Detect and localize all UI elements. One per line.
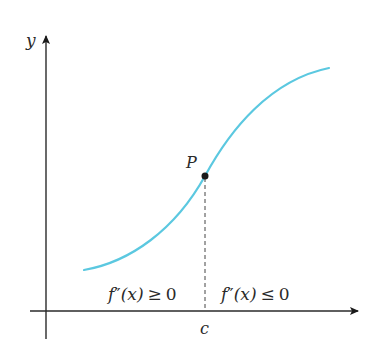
inflection-diagram: y P c f″(x)≥0 f″(x)≤0 bbox=[0, 0, 380, 349]
right-region-label: f″(x)≤0 bbox=[219, 284, 290, 304]
curve bbox=[84, 68, 329, 270]
left-region-label: f″(x)≥0 bbox=[106, 284, 177, 304]
point-label: P bbox=[185, 153, 197, 172]
y-axis-label: y bbox=[25, 30, 36, 50]
inflection-point bbox=[202, 173, 209, 180]
x-tick-label: c bbox=[200, 319, 209, 338]
